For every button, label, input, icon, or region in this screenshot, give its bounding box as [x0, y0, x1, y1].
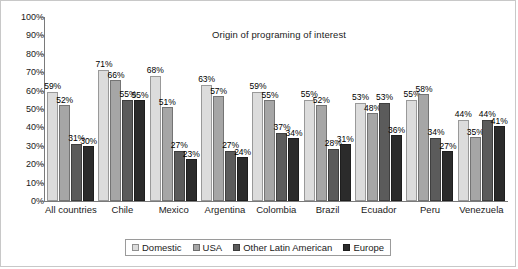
y-axis-tick-label: 90% [4, 30, 44, 40]
bar-group: 55%52%28%31% [302, 17, 353, 201]
bar-column: 55% [304, 17, 315, 201]
bar-column: 55% [122, 17, 133, 201]
chart-container: Origin of programing of interest 100%90%… [0, 0, 516, 267]
y-axis-tick-label: 10% [4, 178, 44, 188]
bar [355, 103, 366, 201]
bar-column: 27% [225, 17, 236, 201]
legend-item[interactable]: Other Latin American [233, 242, 332, 253]
y-axis-tick-mark [40, 164, 44, 165]
chart-legend: DomesticUSAOther Latin AmericanEurope [125, 239, 391, 256]
bar-column: 34% [430, 17, 441, 201]
bar-group: 59%55%37%34% [250, 17, 301, 201]
y-axis-tick-mark [40, 54, 44, 55]
bar [482, 120, 493, 201]
legend-label: Europe [353, 242, 384, 253]
bar-value-label: 30% [80, 137, 97, 146]
bar-group: 53%48%53%36% [353, 17, 404, 201]
bar-column: 36% [391, 17, 402, 201]
y-axis-tick-label: 80% [4, 49, 44, 59]
y-axis-tick-mark [40, 183, 44, 184]
bar [304, 100, 315, 201]
bar-column: 31% [71, 17, 82, 201]
bar-value-label: 23% [183, 150, 200, 159]
x-axis-label: Ecuador [353, 204, 404, 215]
bar [288, 138, 299, 201]
bar [150, 76, 161, 201]
bar-column: 48% [367, 17, 378, 201]
x-axis-label: Brazil [302, 204, 353, 215]
legend-swatch-icon [193, 244, 200, 251]
y-axis-tick-label: 20% [4, 159, 44, 169]
bar-column: 41% [494, 17, 505, 201]
legend-swatch-icon [132, 244, 139, 251]
legend-item[interactable]: USA [193, 242, 223, 253]
bar-value-label: 34% [285, 129, 302, 138]
bar [340, 144, 351, 201]
bar [201, 85, 212, 201]
bar-column: 23% [186, 17, 197, 201]
bar-column: 53% [379, 17, 390, 201]
bar [470, 137, 481, 201]
bar-column: 55% [406, 17, 417, 201]
bar-group: 71%66%55%55% [96, 17, 147, 201]
x-axis-label: Mexico [148, 204, 199, 215]
bar [276, 133, 287, 201]
bar-column: 71% [98, 17, 109, 201]
legend-item[interactable]: Domestic [132, 242, 182, 253]
bar [418, 94, 429, 201]
legend-label: Domestic [142, 242, 182, 253]
bar-group: 44%35%44%41% [456, 17, 507, 201]
bar [225, 151, 236, 201]
bar [134, 100, 145, 201]
bar-group: 68%51%27%23% [148, 17, 199, 201]
legend-label: USA [203, 242, 223, 253]
bar-column: 37% [276, 17, 287, 201]
bar-group: 63%57%27%24% [199, 17, 250, 201]
bar-column: 44% [482, 17, 493, 201]
bar-column: 58% [418, 17, 429, 201]
x-axis-label: Colombia [251, 204, 302, 215]
bar-column: 27% [442, 17, 453, 201]
bar-value-label: 55% [131, 91, 148, 100]
y-axis-tick-label: 70% [4, 67, 44, 77]
bar-column: 34% [288, 17, 299, 201]
y-axis-tick-label: 30% [4, 141, 44, 151]
bar [162, 107, 173, 201]
bar [98, 70, 109, 201]
y-axis-ticks: 100%90%80%70%60%50%40%30%20%10%0% [1, 1, 44, 218]
bar-column: 55% [134, 17, 145, 201]
bar-column: 57% [213, 17, 224, 201]
bar [59, 105, 70, 201]
x-axis-labels: All countriesChileMexicoArgentinaColombi… [45, 204, 507, 215]
y-axis-tick-label: 50% [4, 104, 44, 114]
bar [83, 146, 94, 201]
bar [237, 157, 248, 201]
bar [316, 105, 327, 201]
bar-value-label: 31% [337, 135, 354, 144]
y-axis-tick-mark [40, 127, 44, 128]
bar-column: 44% [458, 17, 469, 201]
bar [379, 103, 390, 201]
bar-column: 30% [83, 17, 94, 201]
x-axis-label: All countries [45, 204, 97, 215]
x-axis-line [44, 201, 508, 202]
bar-column: 31% [340, 17, 351, 201]
legend-item[interactable]: Europe [343, 242, 384, 253]
y-axis-tick-mark [40, 146, 44, 147]
bar-value-label: 27% [439, 142, 456, 151]
x-axis-label: Venezuela [456, 204, 507, 215]
bar [391, 135, 402, 201]
y-axis-tick-label: 40% [4, 122, 44, 132]
bar-column: 66% [110, 17, 121, 201]
bar-column: 59% [47, 17, 58, 201]
bar [174, 151, 185, 201]
y-axis-tick-mark [40, 109, 44, 110]
y-axis-tick-mark [40, 35, 44, 36]
bar-column: 52% [316, 17, 327, 201]
y-axis-tick-mark [40, 201, 44, 202]
y-axis-tick-label: 0% [4, 196, 44, 206]
y-axis-tick-mark [40, 17, 44, 18]
bar [186, 159, 197, 201]
bar-column: 24% [237, 17, 248, 201]
bar-column: 27% [174, 17, 185, 201]
